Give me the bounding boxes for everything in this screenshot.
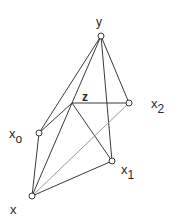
edge-x2-x	[32, 103, 129, 196]
node-x2-marker	[126, 100, 132, 106]
node-x0-marker	[36, 130, 42, 136]
graph-diagram: y z x2 xo x1 x	[0, 0, 178, 223]
label-x: x	[10, 202, 17, 217]
node-y-marker	[98, 33, 104, 39]
edge-x1-x	[32, 161, 112, 196]
label-x0: xo	[9, 126, 23, 146]
node-x-marker	[29, 193, 35, 199]
label-y: y	[96, 15, 102, 29]
edge-x0-x	[32, 133, 39, 196]
node-x1-marker	[109, 158, 115, 164]
edge-y-x2	[101, 36, 129, 103]
edge-z-x	[32, 103, 72, 196]
label-x2-sub: 2	[158, 102, 165, 116]
edge-y-x1	[101, 36, 112, 161]
edges-group	[32, 36, 129, 196]
edge-y-x0	[39, 36, 101, 133]
label-x1-sub: 1	[128, 168, 135, 182]
label-x1: x1	[121, 162, 135, 182]
label-z: z	[82, 90, 88, 104]
label-x0-sub: o	[16, 132, 23, 146]
label-x2: x2	[151, 96, 165, 116]
